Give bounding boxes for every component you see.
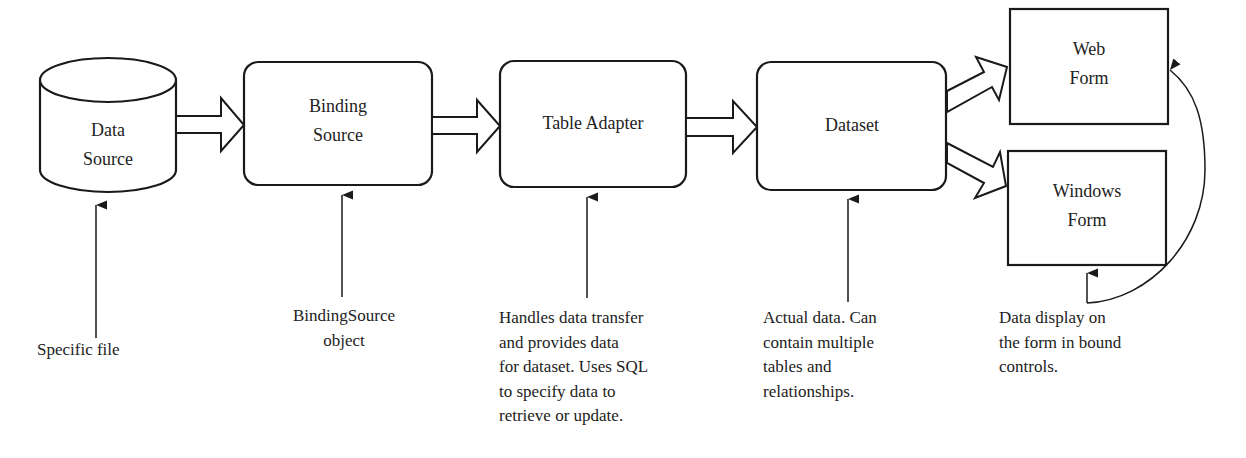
note-form-display: Data display on the form in bound contro… — [999, 306, 1121, 380]
note-specific-file: Specific file — [37, 338, 120, 363]
windows-form-label: Windows Form — [1010, 177, 1164, 235]
block-arrow-bindingsource-to-tableadapter — [432, 100, 500, 152]
block-arrow-datasource-to-bindingsource — [176, 98, 244, 151]
web-form-label: Web Form — [1012, 35, 1166, 93]
note-table-adapter: Handles data transfer and provides data … — [499, 306, 648, 429]
binding-source-label: Binding Source — [248, 92, 428, 150]
block-arrow-dataset-to-windowsform — [947, 143, 1006, 198]
data-source-label: Data Source — [50, 116, 166, 174]
dataset-label: Dataset — [760, 111, 944, 140]
note-bindingsource-object: BindingSource object — [270, 304, 418, 353]
block-arrow-dataset-to-webform — [947, 57, 1007, 112]
note-dataset: Actual data. Can contain multiple tables… — [763, 306, 877, 404]
table-adapter-label: Table Adapter — [502, 109, 684, 138]
block-arrow-tableadapter-to-dataset — [686, 101, 757, 153]
